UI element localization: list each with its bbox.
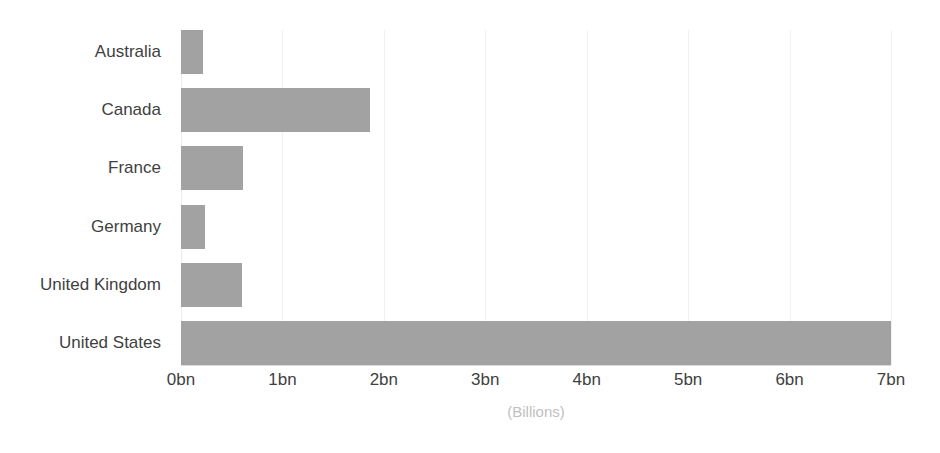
bar-germany[interactable] [181, 205, 205, 249]
bar-row [181, 88, 891, 132]
x-tick-2bn: 2bn [370, 370, 398, 390]
bar-row [181, 205, 891, 249]
bar-row [181, 321, 891, 365]
x-tick-1bn: 1bn [268, 370, 296, 390]
bar-row [181, 146, 891, 190]
x-tick-5bn: 5bn [674, 370, 702, 390]
category-axis-labels: AustraliaCanadaFranceGermanyUnited Kingd… [0, 30, 171, 365]
category-label-france: France [0, 146, 171, 190]
bar-united-kingdom[interactable] [181, 263, 242, 307]
category-label-canada: Canada [0, 88, 171, 132]
x-axis-line [181, 365, 891, 366]
category-label-united-kingdom: United Kingdom [0, 263, 171, 307]
x-axis-title: (Billions) [181, 403, 891, 420]
bar-canada[interactable] [181, 88, 370, 132]
bar-france[interactable] [181, 146, 243, 190]
bar-united-states[interactable] [181, 321, 891, 365]
x-tick-4bn: 4bn [573, 370, 601, 390]
x-tick-7bn: 7bn [877, 370, 905, 390]
bar-series [181, 30, 891, 365]
x-tick-0bn: 0bn [167, 370, 195, 390]
gridline-7bn [891, 30, 892, 365]
category-label-germany: Germany [0, 205, 171, 249]
category-label-australia: Australia [0, 30, 171, 74]
x-tick-3bn: 3bn [471, 370, 499, 390]
plot-area [181, 30, 891, 365]
x-tick-6bn: 6bn [775, 370, 803, 390]
bar-australia[interactable] [181, 30, 203, 74]
bar-row [181, 30, 891, 74]
x-axis-tick-labels: 0bn1bn2bn3bn4bn5bn6bn7bn [181, 370, 891, 396]
category-label-united-states: United States [0, 321, 171, 365]
bar-row [181, 263, 891, 307]
bar-chart: AustraliaCanadaFranceGermanyUnited Kingd… [0, 0, 940, 453]
